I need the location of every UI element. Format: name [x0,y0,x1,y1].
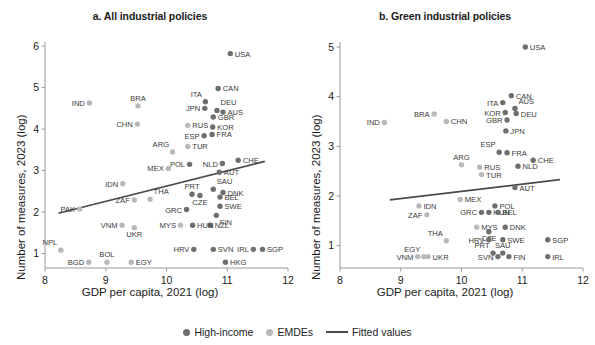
svg-text:12: 12 [282,274,294,286]
svg-text:3: 3 [33,164,39,176]
point-label: VNM [101,221,118,230]
point-label: JPN [510,127,524,136]
point-label: GBR [486,116,503,125]
point-label: GRC [165,206,182,215]
point-label: JPN [186,104,200,113]
svg-text:9: 9 [103,274,109,286]
svg-text:1: 1 [328,239,334,251]
point-label: MEX [147,164,163,173]
svg-text:8: 8 [42,274,48,286]
point-label: SAU [495,241,511,250]
point-label: CZE [192,198,207,207]
panel-all-industrial-policies: a. All industrial policies 1234568910111… [0,0,300,312]
point-label: SWE [224,202,241,211]
point-label: THA [154,187,170,196]
panel-b-plot: 1234589101112USACANITAAUSKORDEUBRAGBRCHN… [295,0,595,312]
figure-scatter-industrial-policies: a. All industrial policies 1234568910111… [0,0,595,345]
point-label: BEL [224,193,238,202]
point-label: HUN [197,221,213,230]
svg-text:5: 5 [33,81,39,93]
svg-text:8: 8 [337,274,343,286]
point-label: IRL [237,245,249,254]
svg-text:1: 1 [33,247,39,259]
svg-text:2: 2 [33,206,39,218]
point-label: NPL [43,238,58,247]
panel-b-x-axis-label: GDP per capita, 2021 (log) [295,286,595,298]
svg-text:10: 10 [456,274,468,286]
point-label: AUS [518,97,534,106]
point-label: FRA [512,149,528,158]
legend-label: EMDEs [277,326,313,338]
point-label: SVN [218,245,234,254]
point-label: ITA [487,99,499,108]
point-label: SGP [267,245,283,254]
point-label: TUR [486,171,502,180]
point-label: IRL [552,253,564,262]
point-label: GRC [460,208,477,217]
point-label: EGY [136,258,152,267]
legend-dot-icon [183,329,190,336]
point-label: IND [367,118,381,127]
point-label: UKR [126,230,143,239]
point-label: IDN [423,202,436,211]
point-label: DEU [220,98,236,107]
point-label: ITA [191,90,203,99]
point-label: ZAF [408,211,423,220]
legend-label: High-income [194,326,253,338]
svg-text:11: 11 [222,274,233,286]
point-label: BEL [502,208,516,217]
point-label: TUR [192,142,208,151]
point-label: DEU [521,110,537,119]
point-label: ESP [480,140,495,149]
point-label: POL [170,160,185,169]
point-label: AUT [224,168,240,177]
point-label: NZL [215,221,229,230]
svg-text:10: 10 [161,274,173,286]
svg-text:4: 4 [33,123,39,135]
svg-text:12: 12 [577,274,589,286]
point-label: IND [72,99,86,108]
point-label: ZAF [115,196,130,205]
point-label: SGP [552,236,568,245]
point-label: NLD [522,162,538,171]
point-label: BRA [414,110,431,119]
point-label: USA [530,43,547,52]
point-label: SAU [217,177,233,186]
point-label: BOL [99,250,114,259]
point-label: NLD [203,160,219,169]
svg-text:5: 5 [328,41,334,53]
svg-text:4: 4 [328,90,334,102]
legend-item-emdes: EMDEs [266,326,313,338]
point-label: RUS [192,121,208,130]
point-label: CHE [243,156,259,165]
svg-text:3: 3 [328,140,334,152]
svg-text:9: 9 [398,274,404,286]
point-label: THA [428,229,444,238]
legend-label: Fitted values [352,326,412,338]
legend-item-high-income: High-income [183,326,253,338]
point-label: FRA [217,130,233,139]
point-label: ARG [453,153,470,162]
panel-a-plot: 12345689101112USACANINDBRAITAJPNDEUAUSGB… [0,0,300,312]
point-label: PRT [475,241,490,250]
legend-dot-icon [266,329,273,336]
point-label: HKG [230,258,247,267]
point-label: USA [235,50,252,59]
point-label: MYS [160,221,176,230]
legend-line-icon [326,331,348,334]
point-label: VNM [396,253,413,262]
point-label: BRA [130,94,147,103]
svg-text:6: 6 [33,40,39,52]
point-label: UKR [433,253,450,262]
point-label: GBR [218,113,235,122]
point-label: PAK [60,205,75,214]
chart-legend: High-incomeEMDEsFitted values [0,322,595,342]
point-label: BGD [68,258,85,267]
panel-a-y-axis-label: Number of measures, 2023 (log) [15,114,27,280]
point-label: CHE [538,156,554,165]
svg-text:11: 11 [517,274,528,286]
panel-green-industrial-policies: b. Green industrial policies 12345891011… [295,0,595,312]
panel-a-x-axis-label: GDP per capita, 2021 (log) [0,286,300,298]
point-label: IDN [105,180,118,189]
point-label: PRT [184,182,199,191]
